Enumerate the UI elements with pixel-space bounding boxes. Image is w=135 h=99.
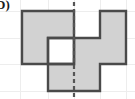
figure-canvas: Shaded polyomino figure with dashed vert… xyxy=(0,0,135,99)
choice-label: D) xyxy=(0,0,10,12)
shape-hole-border xyxy=(48,38,74,64)
polyomino-figure: Shaded polyomino figure with dashed vert… xyxy=(0,0,135,99)
